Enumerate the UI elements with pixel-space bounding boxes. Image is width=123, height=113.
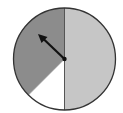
spinner-diagram (0, 0, 123, 113)
sector-light-gray (65, 8, 116, 110)
pivot-dot (62, 57, 66, 61)
